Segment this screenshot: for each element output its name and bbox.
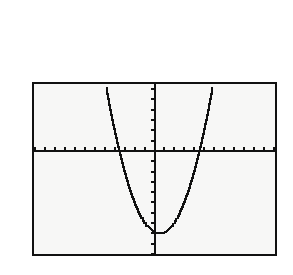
parabola-plot (34, 84, 275, 254)
calculator-screen[interactable] (32, 82, 277, 256)
screenshot-root (0, 0, 293, 275)
